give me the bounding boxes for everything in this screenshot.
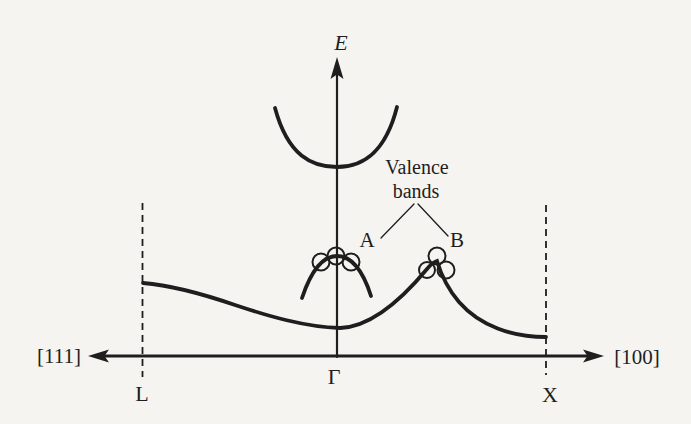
direction-111-label: [111] [37,344,81,368]
valence-bands-label-line1: Valence [385,156,448,178]
point-gamma-label: Γ [328,364,341,389]
textbook-figure-page: E [111] [100] L Γ X Valence bands A B [0,0,691,424]
band-a-label: A [359,228,375,252]
point-X-label: X [542,382,558,407]
band-structure-diagram: E [111] [100] L Γ X Valence bands A B [0,0,691,424]
direction-100-label: [100] [614,345,660,369]
valence-bands-label-line2: bands [393,180,440,202]
energy-axis-label: E [333,30,348,55]
point-L-label: L [135,381,148,406]
band-b-label: B [450,228,464,252]
